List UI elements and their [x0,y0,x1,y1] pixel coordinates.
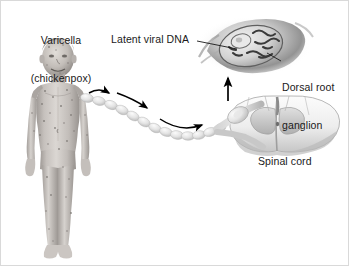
child-hand-right [81,159,91,176]
pathway-arrow-3 [160,119,202,128]
label-varicella: Varicella (chickenpox) [15,9,107,109]
label-varicella-line1: Varicella [15,34,107,47]
label-dorsal-line2: ganglion [282,119,334,132]
label-spinal-cord: Spinal cord [258,155,312,168]
central-canal [276,122,279,126]
label-varicella-line2: (chickenpox) [15,72,107,85]
label-dorsal-line1: Dorsal root [282,81,334,94]
label-latent-viral-dna: Latent viral DNA [111,33,189,46]
child-leg-right [58,165,74,247]
nucleolus [236,38,242,43]
label-dorsal-root-ganglion: Dorsal root ganglion [282,56,334,156]
child-foot-left [44,245,58,259]
child-leg-left [42,165,58,247]
child-hand-left [25,159,35,176]
medical-illustration-figure: Varicella (chickenpox) Latent viral DNA … [0,0,349,266]
child-foot-right [58,245,72,259]
